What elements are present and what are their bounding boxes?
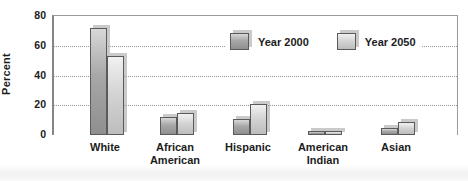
legend-swatch-year-2000 bbox=[230, 33, 249, 50]
bar-asian-year-2050 bbox=[398, 122, 415, 135]
bar-chart-figure: Percent Year 2000Year 2050 WhiteAfricanA… bbox=[0, 0, 468, 181]
bar-asian-year-2000 bbox=[381, 128, 398, 135]
bar-hispanic-year-2050 bbox=[250, 104, 267, 135]
y-tick-40: 40 bbox=[12, 69, 46, 81]
bar-white-year-2000 bbox=[90, 28, 107, 135]
bar-american-indian-year-2050 bbox=[325, 131, 342, 135]
y-tick-80: 80 bbox=[12, 9, 46, 21]
y-tick-20: 20 bbox=[12, 98, 46, 110]
bar-hispanic-year-2000 bbox=[233, 119, 250, 135]
page-edge-shadow bbox=[0, 165, 468, 181]
y-axis-title: Percent bbox=[0, 44, 12, 104]
legend: Year 2000Year 2050 bbox=[226, 31, 422, 52]
bar-african-american-year-2000 bbox=[160, 117, 177, 135]
y-tick-0: 0 bbox=[12, 128, 46, 140]
legend-swatch-year-2050 bbox=[337, 33, 356, 50]
legend-label-year-2050: Year 2050 bbox=[365, 36, 416, 48]
bar-american-indian-year-2000 bbox=[308, 131, 325, 135]
bar-white-year-2050 bbox=[107, 56, 124, 135]
x-label-asian: Asian bbox=[351, 141, 441, 154]
bar-african-american-year-2050 bbox=[177, 113, 194, 135]
legend-label-year-2000: Year 2000 bbox=[258, 36, 309, 48]
y-tick-60: 60 bbox=[12, 39, 46, 51]
